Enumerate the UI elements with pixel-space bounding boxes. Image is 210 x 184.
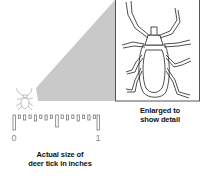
enlarged-caption-line2: show detail xyxy=(125,115,195,124)
actual-size-tick-icon xyxy=(16,88,33,110)
ruler-label-0: 0 xyxy=(10,133,18,143)
actual-size-caption: Actual size of deer tick in inches xyxy=(20,150,100,168)
inch-ruler xyxy=(13,115,100,130)
actual-caption-line1: Actual size of xyxy=(20,150,100,159)
ruler-label-1: 1 xyxy=(94,133,102,143)
actual-caption-line2: deer tick in inches xyxy=(20,159,100,168)
magnification-beam xyxy=(36,0,115,101)
enlarged-caption-line1: Enlarged to xyxy=(125,106,195,115)
enlarged-caption: Enlarged to show detail xyxy=(125,106,195,124)
